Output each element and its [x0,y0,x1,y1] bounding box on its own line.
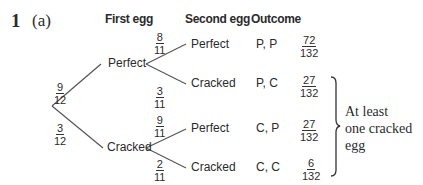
result-pc: 27 132 [299,74,319,99]
prob-first-cracked: 3 12 [53,122,67,147]
outcome-pc: P, C [256,76,278,90]
prob-cc: 2 11 [153,158,166,183]
header-first-egg: First egg [105,12,153,26]
annotation-line-1: At least [345,103,412,120]
outcome-cp: C, P [256,121,279,135]
node-first-cracked: Cracked [107,140,152,154]
node-second-perfect-2: Perfect [191,121,229,135]
header-second-egg: Second egg [185,12,250,26]
node-second-perfect-1: Perfect [191,37,229,51]
annotation-line-3: egg [345,137,412,154]
prob-pp: 8 11 [153,31,166,56]
node-second-cracked-1: Cracked [191,76,236,90]
prob-first-perfect: 9 12 [53,81,67,106]
prob-cp: 9 11 [153,114,166,139]
brace-annotation: At least one cracked egg [345,103,412,154]
outcome-cc: C, C [256,160,280,174]
result-cp: 27 132 [299,118,319,143]
branch-perfect-cracked [146,64,186,84]
question-part: (a) [32,11,51,31]
header-outcome: Outcome [251,12,301,26]
result-cc: 6 132 [301,157,321,182]
curly-brace-icon [331,77,340,176]
annotation-line-2: one cracked [345,120,412,137]
result-pp: 72 132 [299,34,319,59]
node-second-cracked-2: Cracked [191,160,236,174]
question-number: 1 [11,10,21,32]
prob-pc: 3 11 [153,85,166,110]
outcome-pp: P, P [256,37,277,51]
node-first-perfect: Perfect [108,56,146,70]
